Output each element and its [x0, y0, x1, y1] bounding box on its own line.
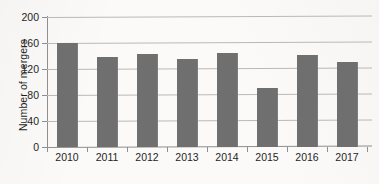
bar-2013[interactable]: [177, 59, 198, 147]
x-tick-label-2012: 2012: [125, 152, 169, 164]
gridline-40: [47, 119, 372, 122]
x-tick-label-2013: 2013: [165, 152, 209, 164]
y-tick-label-80: 80: [9, 90, 39, 101]
bar-2012[interactable]: [137, 54, 158, 147]
bar-chart-figure: Number of mergers 200 160 120 80 40 0: [0, 0, 379, 184]
x-axis-baseline: [47, 145, 372, 148]
y-tick-label-0: 0: [9, 142, 39, 153]
y-tick-label-200: 200: [9, 12, 39, 23]
x-tick-label-2016: 2016: [285, 152, 329, 164]
gridline-80: [47, 93, 372, 96]
gridline-200: [47, 15, 372, 18]
gridline-160: [47, 41, 372, 44]
x-tick-label-2017: 2017: [325, 152, 369, 164]
x-tick-label-2015: 2015: [245, 152, 289, 164]
gridline-120: [47, 67, 372, 70]
y-tick-label-160: 160: [9, 38, 39, 49]
bar-2011[interactable]: [97, 57, 118, 147]
x-tick-label-2011: 2011: [85, 152, 129, 164]
plot-area: [47, 17, 372, 147]
x-tick-label-2010: 2010: [45, 152, 89, 164]
bar-2017[interactable]: [337, 62, 358, 147]
bar-2016[interactable]: [297, 55, 318, 147]
bar-2015[interactable]: [257, 88, 278, 147]
bar-2014[interactable]: [217, 53, 238, 147]
bar-2010[interactable]: [57, 43, 78, 147]
y-axis-tick-labels: 200 160 120 80 40 0: [0, 0, 39, 184]
y-tick-label-120: 120: [9, 64, 39, 75]
y-tick-label-40: 40: [9, 116, 39, 127]
x-tick-label-2014: 2014: [205, 152, 249, 164]
